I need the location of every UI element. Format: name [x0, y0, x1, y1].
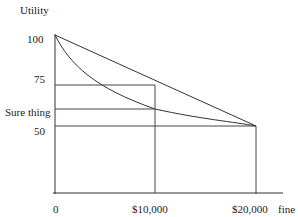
- y-tick-75: 75: [34, 74, 45, 85]
- y-tick-50: 50: [34, 126, 45, 137]
- x-tick-10000: $10,000: [132, 204, 168, 215]
- x-axis-title: fine: [278, 204, 295, 215]
- y-tick-100: 100: [27, 34, 44, 45]
- y-axis-title: Utility: [20, 5, 49, 16]
- x-tick-0: 0: [53, 204, 59, 215]
- y-tick-sure-thing: Sure thing: [5, 107, 51, 118]
- x-tick-20000: $20,000: [232, 204, 268, 215]
